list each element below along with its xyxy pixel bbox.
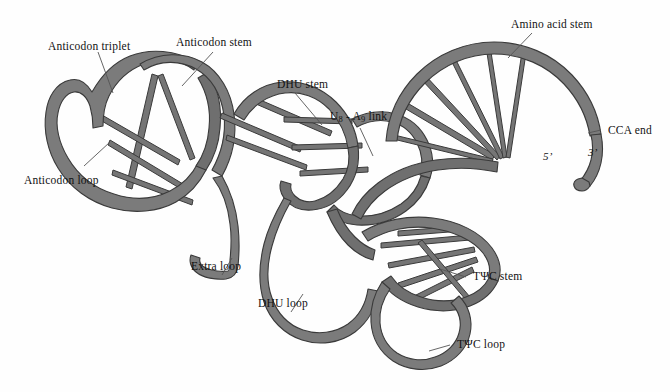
u8-a9-u: U <box>330 110 339 122</box>
label-anticodon-triplet: Anticodon triplet <box>48 40 130 52</box>
label-extra-loop: Extra loop <box>191 260 241 272</box>
u8-a9-mid: - A <box>343 110 361 122</box>
amino-acid-stem-rungs <box>389 52 526 163</box>
label-anticodon-stem: Anticodon stem <box>176 36 252 48</box>
leader-anticodon-loop <box>84 142 110 166</box>
label-tpsic-stem: TΨC stem <box>473 270 522 282</box>
label-anticodon-loop: Anticodon loop <box>24 174 99 186</box>
trna-ribbon-diagram: .rib { fill:#7b7b7b; stroke:#3a3a3a; str… <box>0 0 670 392</box>
label-dhu-loop: DHU loop <box>258 297 308 309</box>
u8-a9-suffix: link <box>365 110 387 122</box>
label-three-prime: 3’ <box>588 146 598 158</box>
label-five-prime: 5’ <box>543 150 553 162</box>
label-cca-end: CCA end <box>608 124 652 136</box>
leader-u8a9 <box>360 128 373 156</box>
label-dhu-stem: DHU stem <box>277 78 328 90</box>
amino-acid-stem <box>352 42 603 219</box>
label-amino-acid-stem: Amino acid stem <box>511 18 593 30</box>
label-tpsic-loop: TΨC loop <box>457 338 505 350</box>
trna-structure-figure: .rib { fill:#7b7b7b; stroke:#3a3a3a; str… <box>0 0 670 392</box>
label-u8-a9-link: U8 - A9 link <box>330 110 387 124</box>
